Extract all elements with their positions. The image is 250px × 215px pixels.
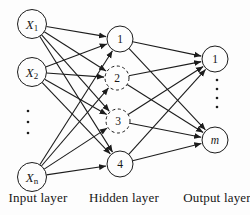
edge-x2-h1 bbox=[46, 44, 107, 67]
output-layer-label: Output layer bbox=[183, 190, 250, 206]
edge-x1-h4 bbox=[40, 36, 113, 152]
node-label-om: m bbox=[211, 134, 219, 146]
input-layer-label: Input layer bbox=[9, 190, 68, 206]
node-label-h2: 2 bbox=[114, 72, 120, 84]
hidden-layer-label: Hidden layer bbox=[89, 190, 159, 206]
edge-h2-o1 bbox=[129, 62, 201, 76]
edge-h3-om bbox=[130, 123, 201, 137]
edge-h4-om bbox=[133, 143, 202, 160]
output-node-om: m bbox=[202, 127, 228, 153]
edge-x1-h1 bbox=[46, 26, 106, 36]
edge-h1-o1 bbox=[133, 42, 202, 56]
hidden-node-h3: 3 bbox=[106, 109, 130, 133]
network-canvas: X1X2Xn12341m bbox=[0, 0, 250, 215]
input-node-x1: X1 bbox=[18, 10, 47, 39]
output-ellipsis-dot bbox=[216, 88, 219, 91]
edge-h4-o1 bbox=[129, 69, 206, 154]
output-ellipsis-dot bbox=[216, 97, 219, 100]
hidden-node-h2: 2 bbox=[105, 66, 129, 90]
input-ellipsis-dot bbox=[27, 132, 30, 135]
edge-xn-h4 bbox=[46, 166, 106, 175]
input-node-xn: Xn bbox=[18, 163, 47, 192]
input-node-x2: X2 bbox=[18, 58, 47, 87]
edge-xn-h3 bbox=[44, 128, 107, 169]
edge-xn-h2 bbox=[41, 88, 108, 166]
edge-x2-h2 bbox=[46, 73, 104, 77]
input-ellipsis-dot bbox=[27, 110, 30, 113]
edge-x2-h4 bbox=[42, 82, 110, 153]
input-ellipsis-dot bbox=[27, 121, 30, 124]
node-label-h1: 1 bbox=[117, 33, 123, 45]
neural-network-diagram: X1X2Xn12341m Input layer Hidden layer Ou… bbox=[0, 0, 250, 215]
node-label-o1: 1 bbox=[212, 53, 218, 65]
hidden-node-h4: 4 bbox=[107, 151, 133, 177]
output-ellipsis-dot bbox=[216, 106, 219, 109]
hidden-node-h1: 1 bbox=[107, 26, 133, 52]
node-label-h4: 4 bbox=[117, 158, 123, 170]
output-node-o1: 1 bbox=[202, 46, 228, 72]
edge-x1-h2 bbox=[44, 32, 106, 71]
node-label-h3: 3 bbox=[115, 115, 121, 127]
output-ellipsis-dot bbox=[216, 79, 219, 82]
